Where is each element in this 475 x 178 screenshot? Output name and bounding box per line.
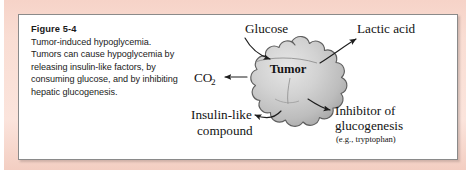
figure-panel: Figure 5-4 Tumor-induced hypoglycemia. T…	[0, 0, 475, 178]
insulin-like-label-line2: compound	[197, 123, 253, 138]
co2-label: CO	[194, 70, 212, 85]
inhibitor-label-line2: glucogenesis	[335, 118, 403, 133]
inhibitor-label-example: (e.g., tryptophan)	[336, 134, 396, 144]
glucose-label: Glucose	[245, 21, 288, 36]
tumor-center-label: Tumor	[270, 62, 307, 76]
tumor-cell-shape	[251, 37, 347, 127]
figure-content-panel: Figure 5-4 Tumor-induced hypoglycemia. T…	[18, 14, 458, 160]
tumor-diagram: Tumor Glucose Lactic acid CO 2 Insulin-l…	[189, 15, 459, 161]
insulin-like-label-line1: Insulin-like	[191, 107, 252, 122]
co2-subscript: 2	[211, 77, 216, 87]
figure-caption: Figure 5-4 Tumor-induced hypoglycemia. T…	[31, 23, 183, 99]
inhibitor-label-line1: Inhibitor of	[335, 103, 396, 118]
lactic-acid-label: Lactic acid	[357, 21, 416, 36]
figure-caption-title: Figure 5-4	[31, 23, 183, 36]
figure-caption-body: Tumor-induced hypoglycemia. Tumors can c…	[31, 36, 183, 99]
